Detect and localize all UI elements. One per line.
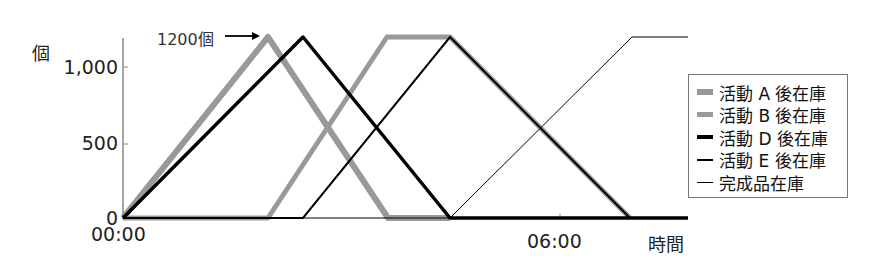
legend-label-finished: 完成品在庫 [719,170,804,195]
legend-swatch-b [697,112,713,117]
legend-label-e: 活動 E 後在庫 [719,147,826,172]
arrow-head-icon [252,32,260,40]
legend-item-a: 活動 A 後在庫 [697,81,847,104]
y-tick-label-1000: 1,000 [38,56,118,78]
legend-swatch-finished [697,182,713,183]
legend-swatch-a [697,89,713,95]
x-tick-label-0000: 00:00 [91,223,146,245]
x-axis-unit: 時間 [648,230,684,256]
legend-swatch-d [697,135,713,139]
legend-label-d: 活動 D 後在庫 [719,125,828,150]
x-tick-label-0600: 06:00 [527,230,582,252]
legend-swatch-e [697,159,713,162]
legend-item-b: 活動 B 後在庫 [697,104,847,127]
series-activity-e [123,37,688,218]
legend-label-b: 活動 B 後在庫 [719,102,826,127]
legend-item-e: 活動 E 後在庫 [697,149,847,172]
legend: 活動 A 後在庫 活動 B 後在庫 活動 D 後在庫 活動 E 後在庫 完成品在… [688,74,848,198]
annotation-label: 1200個 [157,26,214,50]
legend-item-finished: 完成品在庫 [697,171,847,194]
legend-label-a: 活動 A 後在庫 [719,80,826,105]
y-tick-label-500: 500 [38,132,118,154]
legend-item-d: 活動 D 後在庫 [697,126,847,149]
